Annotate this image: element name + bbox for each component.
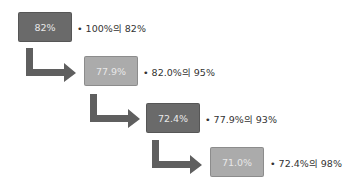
step-value-1: 82% bbox=[34, 22, 55, 33]
elbow-arrow-icon bbox=[150, 140, 206, 174]
step-box-2: 77.9% bbox=[84, 56, 138, 86]
step-note-3: •77.9%의 93% bbox=[205, 112, 277, 126]
step-value-3: 72.4% bbox=[158, 113, 188, 124]
bullet: • bbox=[270, 158, 276, 169]
bullet: • bbox=[205, 114, 211, 125]
elbow-arrow-icon bbox=[24, 48, 80, 82]
step-value-4: 71.0% bbox=[222, 157, 252, 168]
step-note-1: •100%의 82% bbox=[77, 21, 146, 35]
step-note-2: •82.0%의 95% bbox=[143, 65, 215, 79]
step-box-3: 72.4% bbox=[146, 103, 200, 133]
step-box-1: 82% bbox=[18, 12, 72, 42]
bullet: • bbox=[77, 23, 83, 34]
step-box-4: 71.0% bbox=[210, 147, 264, 177]
step-note-4: •72.4%의 98% bbox=[270, 156, 342, 170]
bullet: • bbox=[143, 67, 149, 78]
elbow-arrow-icon bbox=[88, 94, 144, 128]
step-value-2: 77.9% bbox=[96, 66, 126, 77]
